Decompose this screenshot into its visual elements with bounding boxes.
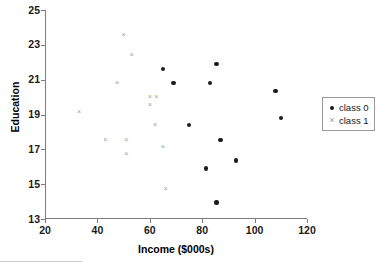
x-axis-tick xyxy=(45,219,46,223)
cross-icon xyxy=(123,137,129,143)
cross-icon xyxy=(160,144,166,150)
x-axis-tick-label: 100 xyxy=(235,225,275,236)
y-axis-tick xyxy=(41,80,45,81)
filled-circle-icon xyxy=(214,200,218,204)
y-axis-tick-label: 15 xyxy=(0,179,40,190)
footer-rule xyxy=(0,261,82,262)
cross-icon xyxy=(147,102,153,108)
legend-entry-class-1: × class 1 xyxy=(326,114,369,127)
cross-icon xyxy=(147,94,153,100)
filled-circle-icon xyxy=(171,81,175,85)
plot-area xyxy=(45,10,307,219)
cross-icon xyxy=(163,186,169,192)
y-axis-tick-label: 25 xyxy=(0,5,40,16)
y-axis-tick xyxy=(41,10,45,11)
x-axis-tick-label: 40 xyxy=(77,225,117,236)
x-axis-tick xyxy=(97,219,98,223)
x-axis-tick xyxy=(255,219,256,223)
x-axis-tick-label: 20 xyxy=(25,225,65,236)
y-axis-tick xyxy=(41,115,45,116)
cross-icon xyxy=(76,109,82,115)
y-axis-title: Education xyxy=(9,62,21,152)
filled-circle-icon xyxy=(326,101,338,114)
cross-icon xyxy=(128,52,134,58)
x-axis-tick xyxy=(202,219,203,223)
filled-circle-icon xyxy=(214,62,218,66)
scatter-chart-figure: 13151719212325 20406080100120 Income ($0… xyxy=(0,0,381,265)
filled-circle-icon xyxy=(204,166,208,170)
x-axis-tick-label: 120 xyxy=(287,225,327,236)
filled-circle-icon xyxy=(273,89,277,93)
x-axis-tick xyxy=(150,219,151,223)
cross-icon: × xyxy=(326,114,338,127)
x-axis-tick-label: 60 xyxy=(130,225,170,236)
x-axis-tick xyxy=(307,219,308,223)
x-axis-tick-label: 80 xyxy=(182,225,222,236)
cross-icon xyxy=(102,137,108,143)
cross-icon xyxy=(123,151,129,157)
filled-circle-icon xyxy=(218,138,222,142)
y-axis-tick xyxy=(41,149,45,150)
y-axis-tick-label: 23 xyxy=(0,39,40,50)
cross-icon xyxy=(153,94,159,100)
cross-icon xyxy=(121,32,127,38)
legend-label-class-1: class 1 xyxy=(338,115,369,126)
y-axis-tick xyxy=(41,45,45,46)
chart-legend: class 0 × class 1 xyxy=(322,97,375,131)
cross-icon xyxy=(152,122,158,128)
legend-label-class-0: class 0 xyxy=(338,102,369,113)
x-axis-title: Income ($000s) xyxy=(45,243,307,255)
y-axis-tick-label: 13 xyxy=(0,214,40,225)
legend-entry-class-0: class 0 xyxy=(326,101,369,114)
cross-icon xyxy=(114,80,120,86)
y-axis-tick xyxy=(41,184,45,185)
